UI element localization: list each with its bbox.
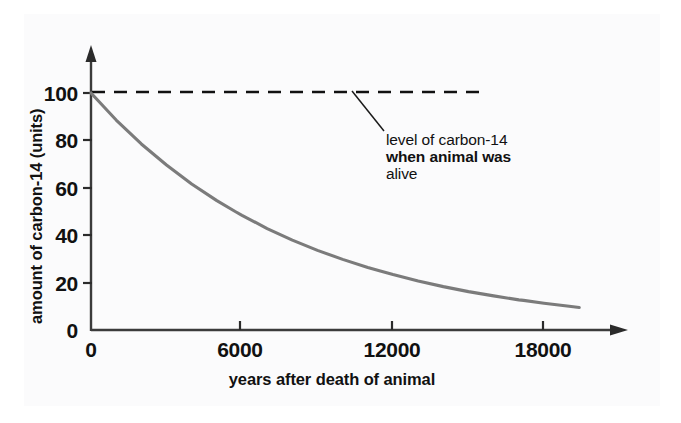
x-tick-label-0: 0 [85, 338, 96, 361]
x-tick-label-12000: 12000 [364, 338, 421, 361]
y-tick-label-60: 60 [55, 177, 78, 200]
y-tick-label-40: 40 [55, 224, 78, 247]
x-axis [91, 325, 628, 336]
y-axis-arrowhead [86, 45, 97, 62]
annotation-leader-line [352, 91, 384, 131]
y-axis-tick-labels: 100 80 60 40 20 0 [44, 82, 78, 342]
annotation-text: level of carbon-14 when animal was alive [385, 131, 511, 182]
annotation-line-3: alive [386, 165, 417, 182]
x-tick-label-6000: 6000 [217, 338, 263, 361]
chart-figure: 100 80 60 40 20 0 0 6000 12000 18000 [0, 0, 681, 423]
x-axis-tick-labels: 0 6000 12000 18000 [85, 338, 571, 361]
x-axis-ticks [240, 321, 543, 330]
decay-curve-guide [91, 93, 452, 332]
y-tick-label-20: 20 [55, 272, 78, 295]
y-tick-label-100: 100 [44, 82, 78, 105]
y-axis-title: amount of carbon-14 (units) [27, 109, 45, 324]
x-tick-label-18000: 18000 [515, 338, 572, 361]
x-axis-arrowhead [610, 325, 628, 336]
y-tick-label-0: 0 [67, 319, 78, 342]
carbon-14-decay-chart: 100 80 60 40 20 0 0 6000 12000 18000 [0, 0, 681, 423]
annotation-line-2: when animal was [385, 148, 511, 165]
annotation-line-1: level of carbon-14 [386, 131, 508, 148]
x-axis-title: years after death of animal [229, 370, 435, 388]
carbon-14-decay-curve [91, 93, 579, 307]
y-tick-label-80: 80 [55, 129, 78, 152]
